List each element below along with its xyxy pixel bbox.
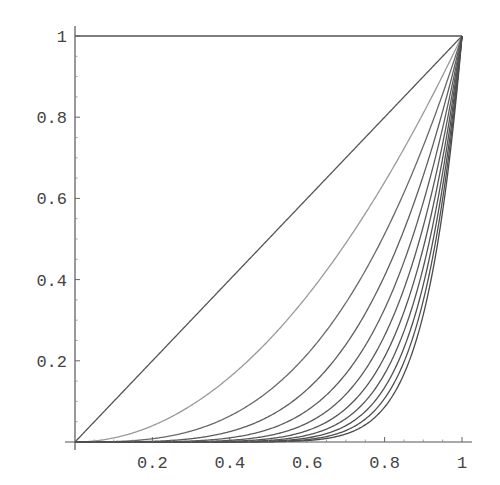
curve-group <box>75 36 462 442</box>
x-tick-label: 0.2 <box>137 454 168 473</box>
x-tick-label: 0.6 <box>292 454 323 473</box>
y-tick-label: 0.6 <box>36 190 67 209</box>
y-tick-label: 0.2 <box>36 353 67 372</box>
x-tick-label: 0.4 <box>214 454 245 473</box>
power-curves-chart: 0.20.40.60.81 0.20.40.60.81 <box>0 0 500 485</box>
x-tick-label: 1 <box>457 454 467 473</box>
x-tick-label: 0.8 <box>369 454 400 473</box>
y-axis-ticks: 0.20.40.60.81 <box>36 28 80 422</box>
y-tick-label: 0.8 <box>36 109 67 128</box>
curve-x-pow-1 <box>75 36 462 442</box>
y-tick-label: 0.4 <box>36 272 67 291</box>
y-tick-label: 1 <box>57 28 67 47</box>
